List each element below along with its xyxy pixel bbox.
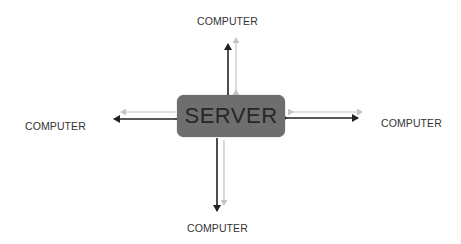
server-label: SERVER (184, 103, 277, 129)
computer-label-left: COMPUTER (25, 120, 86, 132)
computer-label-bottom: COMPUTER (187, 222, 248, 234)
computer-label-top: COMPUTER (197, 15, 258, 27)
computer-label-right: COMPUTER (381, 117, 442, 129)
server-node: SERVER (177, 95, 285, 137)
